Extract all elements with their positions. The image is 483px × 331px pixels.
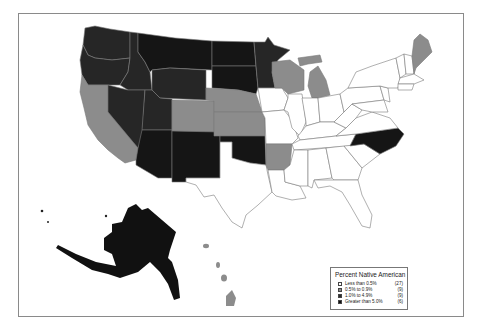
state-hawaii-island	[203, 244, 209, 248]
state-michigan-lower	[308, 66, 330, 98]
state-arkansas	[266, 144, 292, 170]
legend-swatch	[338, 288, 342, 292]
legend-label: Greater than 5.0%	[345, 299, 391, 305]
us-choropleth-map	[0, 0, 483, 331]
state-colorado	[172, 100, 214, 132]
state-alaska	[56, 204, 180, 300]
legend-count: (6)	[391, 299, 403, 305]
state-kansas	[214, 112, 265, 136]
state-montana	[138, 33, 212, 72]
state-hawaii-island	[216, 262, 220, 268]
alaska-island	[47, 221, 49, 223]
state-connecticut	[398, 84, 414, 90]
legend-item: Greater than 5.0% (6)	[338, 299, 403, 305]
state-iowa	[258, 88, 288, 112]
state-hawaii-island	[221, 275, 227, 282]
state-michigan	[298, 55, 322, 66]
state-maine	[412, 34, 432, 74]
state-wyoming	[152, 68, 206, 100]
state-new-mexico	[172, 131, 220, 182]
alaska-island	[105, 215, 107, 217]
state-hawaii-big-island	[226, 290, 236, 306]
legend-swatch	[338, 294, 342, 298]
state-washington	[83, 26, 130, 60]
state-north-dakota	[212, 41, 256, 66]
state-new-york	[348, 58, 400, 88]
legend-swatch	[338, 282, 342, 286]
state-florida	[314, 180, 372, 228]
state-arizona	[136, 130, 172, 178]
legend-title: Percent Native American	[335, 271, 403, 278]
map-legend: Percent Native American Less than 0.5% (…	[330, 267, 408, 310]
alaska-island	[41, 210, 44, 213]
legend-swatch	[338, 300, 342, 304]
